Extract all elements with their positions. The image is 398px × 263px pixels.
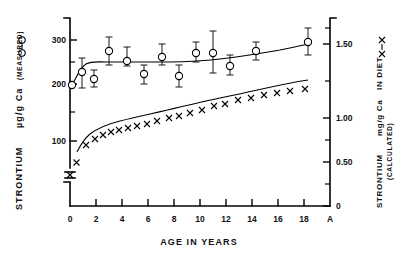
datapoint-calculated-0 <box>74 160 80 166</box>
datapoint-calculated-8 <box>144 121 150 127</box>
datapoint-calculated-1 <box>83 142 89 148</box>
x-ticklabel-16: 16 <box>273 214 283 224</box>
datapoint-measured-5 <box>140 70 147 77</box>
datapoint-calculated-origin-marker <box>67 172 73 178</box>
datapoint-measured-10 <box>226 62 233 69</box>
x-ticklabel-adult: A <box>327 214 333 224</box>
datapoint-measured-8 <box>192 49 199 56</box>
x-ticklabel-14: 14 <box>247 214 257 224</box>
datapoint-calculated-21 <box>302 86 308 92</box>
datapoint-calculated-11 <box>176 113 182 119</box>
datapoint-calculated-4 <box>108 129 114 135</box>
right-ticklabel-0-50: 0.50 <box>336 157 353 167</box>
left-axis-lower-line <box>64 182 70 206</box>
datapoint-calculated-7 <box>134 123 140 129</box>
legend-x-bottom <box>379 51 385 57</box>
x-ticklabel-0: 0 <box>68 214 73 224</box>
series-calculated-markers <box>74 86 309 166</box>
datapoint-calculated-15 <box>222 101 228 107</box>
right-axis-title-qualifier2-group: (CALCULATED) <box>386 123 394 180</box>
legend-symbol-calculated <box>379 37 385 57</box>
right-ticklabel-0: 0 <box>336 201 341 211</box>
x-ticklabel-12: 12 <box>221 214 231 224</box>
left-axis-title-units: µg/g Ca <box>14 88 24 128</box>
datapoint-calculated-10 <box>166 115 172 121</box>
x-ticklabel-8: 8 <box>172 214 177 224</box>
left-axis-title-group: STRONTIUM µg/g Ca (MEASURED) <box>14 31 24 210</box>
datapoint-measured-6 <box>158 53 165 60</box>
datapoint-calculated-3 <box>100 132 106 138</box>
left-ticklabel-100: 100 <box>52 136 66 146</box>
series-measured-errorbars <box>79 28 312 88</box>
datapoint-calculated-9 <box>154 118 160 124</box>
datapoint-calculated-2 <box>92 136 98 142</box>
datapoint-calculated-16 <box>235 97 241 103</box>
right-y-axis: 1.50 1.00 0.50 0 <box>323 18 353 211</box>
x-ticklabel-2: 2 <box>94 214 99 224</box>
left-ticklabel-300: 300 <box>52 35 66 45</box>
datapoint-calculated-6 <box>125 125 131 131</box>
x-ticklabel-6: 6 <box>146 214 151 224</box>
datapoint-measured-2 <box>90 75 97 82</box>
x-ticklabel-10: 10 <box>195 214 205 224</box>
datapoint-calculated-14 <box>211 103 217 109</box>
datapoint-calculated-18 <box>261 92 267 98</box>
x-axis-title: AGE IN YEARS <box>160 237 238 247</box>
left-ticklabel-200: 200 <box>52 79 66 89</box>
datapoint-measured-0 <box>68 81 75 88</box>
datapoint-measured-7 <box>175 72 182 79</box>
strontium-chart: 300 200 100 STRONTIUM µg/g Ca (MEASURED)… <box>0 0 398 263</box>
right-ticklabel-1-00: 1.00 <box>336 113 353 123</box>
datapoint-calculated-19 <box>274 90 280 96</box>
datapoint-calculated-20 <box>287 88 293 94</box>
datapoint-measured-1 <box>78 68 85 75</box>
right-axis-title-units: mg/g Ca <box>375 100 384 136</box>
datapoint-calculated-17 <box>248 95 254 101</box>
x-ticklabel-4: 4 <box>120 214 125 224</box>
figure-container: 300 200 100 STRONTIUM µg/g Ca (MEASURED)… <box>0 0 398 263</box>
datapoint-measured-9 <box>209 49 216 56</box>
datapoint-measured-11 <box>252 47 259 54</box>
right-axis-title-group: STRONTIUM mg/g Ca IN DIET <box>375 57 384 208</box>
legend-x-top <box>379 37 385 43</box>
datapoint-measured-12 <box>304 38 311 45</box>
right-axis-title-qualifier: IN DIET <box>375 57 384 90</box>
datapoint-calculated-5 <box>116 127 122 133</box>
datapoint-measured-3 <box>105 47 112 54</box>
series-measured-markers <box>68 38 311 88</box>
datapoint-calculated-12 <box>187 110 193 116</box>
right-ticklabel-1-50: 1.50 <box>336 39 353 49</box>
left-y-axis: 300 200 100 <box>52 18 77 206</box>
x-ticklabel-18: 18 <box>299 214 309 224</box>
right-axis-title-qualifier2: (CALCULATED) <box>386 123 394 180</box>
x-axis: 0 2 4 6 8 10 12 14 16 18 A <box>68 199 333 224</box>
datapoint-measured-4 <box>123 57 130 64</box>
datapoint-calculated-13 <box>199 107 205 113</box>
left-axis-title-main: STRONTIUM <box>14 147 24 210</box>
right-axis-title-main: STRONTIUM <box>375 154 384 208</box>
